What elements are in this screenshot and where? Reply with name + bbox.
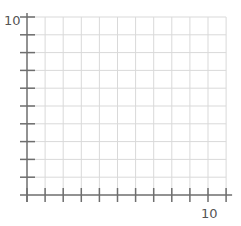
- grid-lines: [27, 17, 226, 195]
- x-axis-max-label: 10: [201, 206, 218, 221]
- coordinate-grid-chart: 10 10: [0, 0, 241, 226]
- y-axis-max-label: 10: [4, 13, 21, 28]
- axis-ticks: [20, 17, 226, 202]
- axes: [20, 13, 232, 202]
